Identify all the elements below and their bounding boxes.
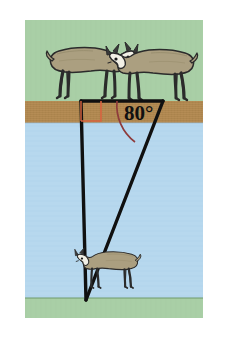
illustration-figure: 80° xyxy=(25,20,203,318)
band-lower-grass xyxy=(25,298,203,318)
angle-label-80: 80° xyxy=(124,101,153,125)
band-water xyxy=(25,123,203,298)
band-dirt-bank xyxy=(25,101,203,123)
